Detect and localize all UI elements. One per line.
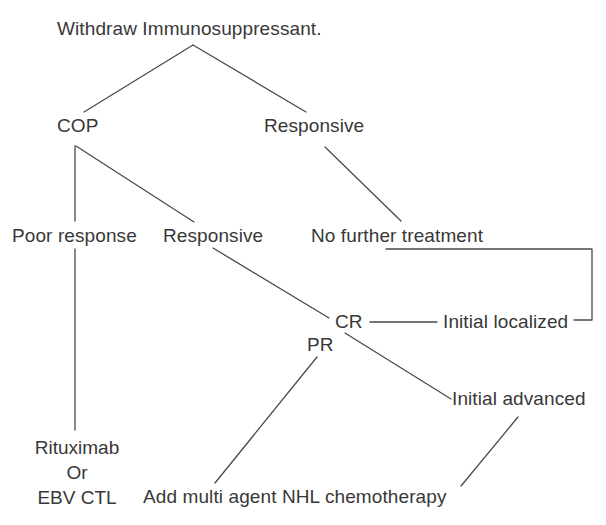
edge-responsive-mid-to-cr (213, 248, 329, 318)
node-rituximab-ebvctl: RituximabOrEBV CTL (22, 435, 132, 510)
node-responsive-mid: Responsive (163, 225, 263, 246)
treatment-flowchart: Withdraw Immunosuppressant.COPResponsive… (0, 0, 606, 525)
node-initial-localized: Initial localized (443, 311, 568, 332)
node-initial-advanced: Initial advanced (452, 388, 586, 409)
edge-cop-to-responsive-mid (76, 146, 194, 222)
node-rituximab-ebvctl-line-2: EBV CTL (22, 485, 132, 510)
edge-root-to-responsive-top (193, 45, 306, 112)
node-responsive-top: Responsive (264, 115, 364, 136)
node-root: Withdraw Immunosuppressant. (57, 18, 322, 39)
node-cr: CR (335, 311, 363, 332)
node-nhl-chemo: Add multi agent NHL chemotherapy (143, 486, 447, 507)
node-rituximab-ebvctl-line-1: Or (22, 460, 132, 485)
node-cop: COP (57, 115, 98, 136)
edge-initial-advanced-to-nhl (461, 417, 518, 486)
edge-root-to-cop (84, 45, 193, 112)
edge-cr-to-initial-advanced (345, 333, 451, 399)
edge-pr-to-nhl-chemo (215, 357, 317, 483)
node-rituximab-ebvctl-line-0: Rituximab (22, 435, 132, 460)
edge-nft-bracket (386, 249, 592, 320)
node-pr: PR (307, 334, 334, 355)
edge-responsive-top-to-nft (325, 147, 401, 221)
node-poor-response: Poor response (12, 225, 137, 246)
node-no-further: No further treatment (311, 225, 483, 246)
